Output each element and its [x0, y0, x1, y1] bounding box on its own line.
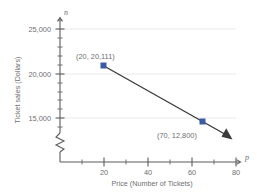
- y-tick-label-25000: 25,000: [28, 25, 51, 34]
- x-axis: [60, 160, 241, 165]
- x-tick-label-60: 60: [188, 168, 196, 177]
- data-series-line: [104, 66, 233, 140]
- y-tick-label-15000: 15,000: [28, 114, 51, 123]
- chart-canvas: 25,000 20,000 15,000 20 40 60 80 n p (20…: [0, 0, 257, 195]
- x-tick-label-80: 80: [232, 168, 240, 177]
- y-tick-label-20000: 20,000: [28, 70, 51, 79]
- y-axis: [56, 18, 64, 163]
- x-tick-label-40: 40: [144, 168, 152, 177]
- x-axis-title: Price (Number of Tickets): [111, 179, 192, 188]
- grid-lines: [60, 29, 236, 118]
- data-point-label-a: (20, 20,111): [76, 52, 115, 61]
- chart-container: 25,000 20,000 15,000 20 40 60 80 n p (20…: [0, 0, 257, 195]
- data-point-label-b: (70, 12,800): [157, 131, 197, 140]
- x-tick-label-20: 20: [100, 168, 108, 177]
- data-point-marker-b[interactable]: [200, 119, 206, 125]
- y-axis-variable-label: n: [64, 8, 68, 17]
- data-point-marker-a[interactable]: [101, 63, 107, 69]
- x-axis-variable-label: p: [244, 153, 249, 162]
- y-axis-title: Ticket sales (Dollars): [13, 57, 22, 124]
